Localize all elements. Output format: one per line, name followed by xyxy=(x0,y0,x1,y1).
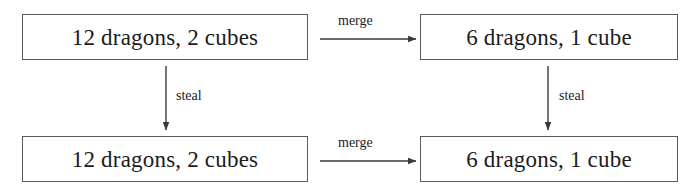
node-label-top-left: 12 dragons, 2 cubes xyxy=(72,26,259,49)
edge-label-steal-right: steal xyxy=(559,89,585,103)
node-box-bottom-right: 6 dragons, 1 cube xyxy=(420,136,678,182)
node-label-bottom-left: 12 dragons, 2 cubes xyxy=(72,148,259,171)
node-label-bottom-right: 6 dragons, 1 cube xyxy=(466,148,632,171)
node-box-bottom-left: 12 dragons, 2 cubes xyxy=(22,136,308,182)
edge-label-merge-top: merge xyxy=(338,14,373,28)
edge-label-merge-bottom: merge xyxy=(338,136,373,150)
node-box-top-right: 6 dragons, 1 cube xyxy=(420,14,678,60)
node-box-top-left: 12 dragons, 2 cubes xyxy=(22,14,308,60)
dragons-cubes-commutative-diagram: 12 dragons, 2 cubes 6 dragons, 1 cube 12… xyxy=(0,0,698,194)
node-label-top-right: 6 dragons, 1 cube xyxy=(466,26,632,49)
edge-label-steal-left: steal xyxy=(176,89,202,103)
